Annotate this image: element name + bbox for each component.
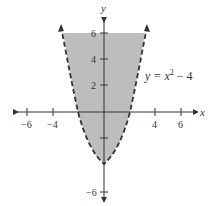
tick-label-x-neg6: −6 xyxy=(21,119,32,130)
tick-label-y-2: 2 xyxy=(91,80,96,91)
curve-arrow-left xyxy=(58,24,64,32)
curve-arrow-right xyxy=(144,24,150,32)
equation-lhs: y = x xyxy=(144,69,170,83)
tick-label-x-neg4: −4 xyxy=(47,119,58,130)
equation-rhs: − 4 xyxy=(174,69,193,83)
tick-label-y-6: 6 xyxy=(91,28,96,39)
x-axis-label: x xyxy=(199,106,205,118)
y-axis-label: y xyxy=(100,2,106,14)
tick-label-x-4: 4 xyxy=(152,119,157,130)
tick-label-x-6: 6 xyxy=(178,119,183,130)
graph: x y −6 −4 4 6 6 4 2 −6 y = x2 − 4 xyxy=(0,0,208,206)
tick-label-y-neg6: −6 xyxy=(86,187,97,198)
tick-label-y-4: 4 xyxy=(91,54,96,65)
equation-label: y = x2 − 4 xyxy=(144,68,193,83)
